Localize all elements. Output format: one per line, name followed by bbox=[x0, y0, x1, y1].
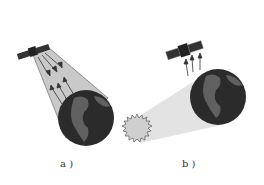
earth-a bbox=[58, 90, 114, 146]
diagram bbox=[0, 0, 264, 185]
earth-b bbox=[190, 69, 246, 125]
panel-label-b: b ) bbox=[182, 158, 195, 169]
arrows-b bbox=[184, 53, 202, 76]
panel-label-a: a ) bbox=[60, 158, 73, 169]
